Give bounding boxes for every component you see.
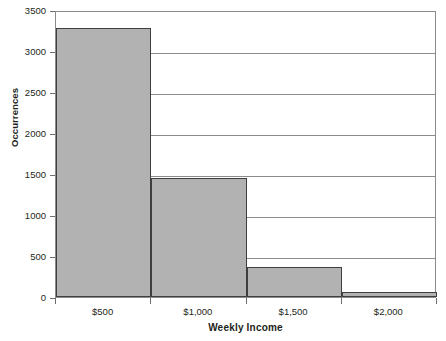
x-axis-tick: [150, 298, 151, 304]
y-axis-tick-label: 3500: [0, 6, 46, 16]
y-axis-tick-label: 2500: [0, 88, 46, 98]
y-axis-title: Occurrences: [9, 58, 20, 178]
y-axis-tick: [50, 93, 55, 94]
y-axis-tick-label: 1500: [0, 170, 46, 180]
x-axis-tick-label: $500: [53, 306, 153, 318]
x-axis-tick: [341, 298, 342, 304]
y-axis-tick: [50, 216, 55, 217]
x-axis-tick-label: $2,000: [338, 306, 438, 318]
y-axis-tick: [50, 52, 55, 53]
y-axis-tick: [50, 175, 55, 176]
x-axis-tick-label: $1,000: [148, 306, 248, 318]
bar: [342, 292, 437, 297]
plot-area: [55, 11, 436, 298]
y-axis-tick-label: 2000: [0, 129, 46, 139]
histogram-chart: Occurrences 0500100015002000250030003500…: [0, 0, 446, 341]
x-axis-title: Weekly Income: [55, 322, 436, 333]
y-axis-tick: [50, 257, 55, 258]
bar: [56, 28, 151, 297]
chart-title: [0, 0, 446, 2]
y-axis-tick: [50, 11, 55, 12]
y-axis-tick: [50, 134, 55, 135]
x-axis-tick: [55, 298, 56, 304]
y-axis-tick-label: 0: [0, 293, 46, 303]
bar: [247, 267, 342, 297]
x-axis-tick: [246, 298, 247, 304]
bar-series: [56, 12, 435, 297]
y-axis-tick-label: 3000: [0, 47, 46, 57]
x-axis-tick: [436, 298, 437, 304]
y-axis-tick-label: 500: [0, 252, 46, 262]
bar: [151, 178, 246, 297]
x-axis-tick-label: $1,500: [243, 306, 343, 318]
y-axis-tick-label: 1000: [0, 211, 46, 221]
